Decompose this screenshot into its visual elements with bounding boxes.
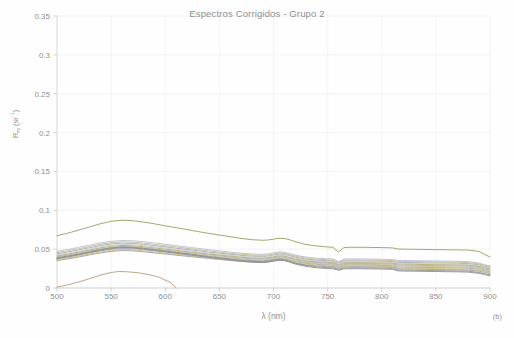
x-tick-label-2: 600	[159, 292, 172, 301]
y-tick-label-2: 0.1	[18, 206, 50, 215]
y-tick-label-5: 0.25	[18, 89, 50, 98]
y-tick-label-1: 0.05	[18, 245, 50, 254]
x-tick-label-7: 850	[429, 292, 442, 301]
x-tick-label-1: 550	[104, 292, 117, 301]
plot-area	[0, 0, 514, 338]
x-tick-label-0: 500	[50, 292, 63, 301]
chart-title: Espectros Corrigidos - Grupo 2	[0, 8, 514, 19]
y-tick-label-3: 0.15	[18, 167, 50, 176]
y-tick-label-0: 0	[18, 284, 50, 293]
y-axis-unit-exponent: -1	[9, 112, 15, 117]
y-axis-tick-labels: 00.050.10.150.20.250.30.35	[18, 0, 50, 338]
panel-annotation: (b)	[493, 312, 502, 321]
x-axis-label: λ (nm)	[57, 311, 490, 321]
x-tick-label-6: 800	[375, 292, 388, 301]
chart-container: Espectros Corrigidos - Grupo 2 Rrs (sr-1…	[0, 0, 514, 338]
partial-series-line-0	[57, 272, 176, 288]
y-tick-label-6: 0.3	[18, 50, 50, 59]
x-tick-label-8: 900	[483, 292, 496, 301]
y-tick-label-7: 0.35	[18, 12, 50, 21]
x-tick-label-4: 700	[267, 292, 280, 301]
x-tick-label-5: 750	[321, 292, 334, 301]
x-tick-label-3: 650	[213, 292, 226, 301]
y-tick-label-4: 0.2	[18, 128, 50, 137]
